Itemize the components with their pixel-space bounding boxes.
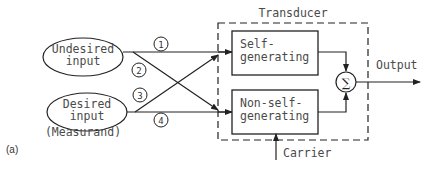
measurand-note: (Measurand): [45, 125, 121, 139]
svg-text:4: 4: [158, 116, 163, 126]
path-number-4: 4: [154, 113, 168, 127]
carrier: Carrier: [276, 134, 332, 160]
path-number-1: 1: [154, 37, 168, 51]
svg-text:2: 2: [136, 66, 141, 76]
svg-text:3: 3: [137, 91, 142, 101]
output-label: Output: [376, 58, 418, 72]
transducer-diagram: Undesired input Desired input (Measurand…: [0, 0, 443, 169]
undesired-input-node: Undesired input: [43, 38, 123, 76]
non-self-generating-label-2: generating: [240, 109, 309, 123]
desired-input-node: Desired input (Measurand): [45, 93, 127, 139]
output: Output: [356, 58, 420, 82]
self-generating-block: Self- generating: [232, 31, 318, 75]
path-number-3: 3: [133, 88, 147, 102]
sigma-icon: ∑: [342, 76, 351, 90]
desired-input-label-2: input: [70, 109, 105, 123]
undesired-input-label-2: input: [66, 54, 101, 68]
svg-text:1: 1: [158, 40, 163, 50]
self-generating-label-1: Self-: [240, 37, 275, 51]
path-2-line: [133, 52, 218, 110]
figure-label: (a): [6, 144, 18, 155]
path-number-2: 2: [132, 63, 146, 77]
non-self-generating-label-1: Non-self-: [240, 96, 302, 110]
transducer-title: Transducer: [258, 6, 327, 20]
self-generating-label-2: generating: [240, 50, 309, 64]
summing-junction: ∑: [336, 72, 356, 92]
non-self-generating-block: Non-self- generating: [232, 90, 318, 134]
path-3-line: [135, 55, 218, 112]
carrier-label: Carrier: [283, 146, 332, 160]
signal-paths: [123, 52, 232, 112]
